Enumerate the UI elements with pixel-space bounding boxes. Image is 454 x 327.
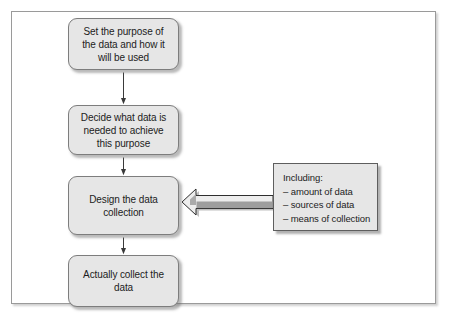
flow-node-collect-data[interactable]: Actually collect the data: [68, 255, 179, 307]
note-item: – means of collection: [283, 212, 377, 226]
note-item: – amount of data: [283, 185, 377, 199]
flow-node-label: Set the purpose of the data and how it w…: [82, 25, 165, 64]
flow-node-label: Decide what data is needed to achieve th…: [81, 111, 166, 150]
connector-including-to-design: [182, 189, 273, 215]
flow-node-label: Design the data collection: [89, 193, 158, 219]
flow-node-label: Actually collect the data: [83, 268, 164, 294]
flow-node-design-collection[interactable]: Design the data collection: [68, 176, 179, 235]
note-item: – sources of data: [283, 198, 377, 212]
flow-node-set-purpose[interactable]: Set the purpose of the data and how it w…: [68, 18, 179, 70]
callout-note-including[interactable]: Including: – amount of data – sources of…: [273, 163, 378, 231]
flow-node-decide-data[interactable]: Decide what data is needed to achieve th…: [68, 105, 179, 155]
note-heading: Including:: [283, 171, 377, 185]
flowchart-figure: Set the purpose of the data and how it w…: [0, 0, 454, 327]
